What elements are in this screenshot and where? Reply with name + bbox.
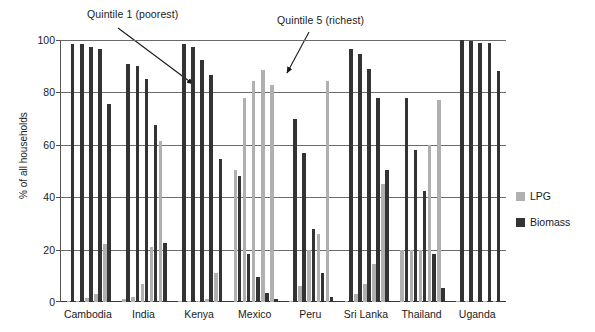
bar-lpg-q5: [381, 184, 385, 302]
bar-biomass-q5: [107, 104, 111, 302]
bar-biomass-q5: [163, 243, 167, 302]
x-tick-label-peru: Peru: [283, 308, 339, 320]
x-tick-label-india: India: [116, 308, 172, 320]
bar-biomass-q3: [423, 191, 427, 302]
bar-lpg-q2: [298, 286, 302, 302]
bar-lpg-q3: [141, 284, 145, 302]
y-tick-label-20: 20: [27, 244, 55, 256]
x-tick-label-kenya: Kenya: [171, 308, 227, 320]
bar-lpg-q3: [85, 298, 89, 302]
bar-lpg-q2: [410, 250, 414, 302]
bar-biomass-q3: [145, 79, 149, 302]
bar-lpg-q5: [103, 244, 107, 302]
bar-biomass-q2: [247, 254, 251, 302]
bar-lpg-q3: [363, 284, 367, 302]
chart-legend: LPG Biomass: [516, 190, 570, 242]
bar-biomass-q4: [488, 43, 492, 302]
bar-biomass-q3: [367, 69, 371, 302]
bar-biomass-q5: [274, 299, 278, 302]
bar-lpg-q2: [243, 98, 247, 302]
bar-biomass-q2: [358, 54, 362, 302]
bar-lpg-q5: [493, 301, 497, 302]
bar-biomass-q4: [432, 254, 436, 302]
bar-lpg-q4: [94, 294, 98, 302]
bar-group-peru: [284, 40, 340, 302]
legend-label-lpg: LPG: [530, 190, 551, 202]
annotation-quintile-1: Quintile 1 (poorest): [87, 8, 178, 20]
bar-biomass-q5: [441, 288, 445, 302]
legend-item-lpg: LPG: [516, 190, 570, 202]
bar-lpg-q1: [67, 301, 71, 302]
plot-area: [60, 40, 505, 302]
bar-biomass-q1: [182, 44, 186, 302]
bar-lpg-q5: [437, 100, 441, 302]
bar-biomass-q1: [405, 98, 409, 302]
bar-biomass-q1: [71, 44, 75, 302]
bar-lpg-q3: [252, 81, 256, 302]
bar-biomass-q3: [312, 229, 316, 302]
bar-biomass-q1: [460, 40, 464, 302]
bar-group-kenya: [172, 40, 228, 302]
bar-lpg-q5: [326, 81, 330, 302]
bar-biomass-q4: [376, 98, 380, 302]
bar-biomass-q2: [191, 47, 195, 302]
bar-group-india: [117, 40, 173, 302]
x-tick-label-sri-lanka: Sri Lanka: [338, 308, 394, 320]
bar-lpg-q3: [419, 250, 423, 302]
bar-biomass-q3: [256, 277, 260, 302]
bar-lpg-q2: [187, 301, 191, 302]
bar-biomass-q4: [209, 75, 213, 302]
bar-biomass-q2: [80, 44, 84, 302]
legend-swatch-biomass: [516, 218, 525, 227]
bar-biomass-q3: [89, 47, 93, 302]
y-tick-label-100: 100: [27, 34, 55, 46]
bar-biomass-q4: [98, 49, 102, 302]
bar-group-mexico: [228, 40, 284, 302]
bar-biomass-q5: [219, 159, 223, 302]
y-axis-title: % of all households: [18, 81, 29, 231]
bar-lpg-q1: [456, 301, 460, 302]
y-tick-label-0: 0: [27, 296, 55, 308]
bar-biomass-q4: [321, 273, 325, 302]
bar-lpg-q2: [131, 297, 135, 302]
bar-lpg-q4: [150, 247, 154, 302]
bar-lpg-q2: [76, 301, 80, 302]
bar-biomass-q3: [478, 43, 482, 302]
bar-lpg-q1: [234, 170, 238, 302]
bar-lpg-q2: [354, 294, 358, 302]
bar-group-cambodia: [61, 40, 117, 302]
bar-biomass-q1: [238, 176, 242, 302]
bar-lpg-q5: [159, 141, 163, 302]
bar-biomass-q1: [293, 119, 297, 302]
y-tick-label-60: 60: [27, 139, 55, 151]
bar-lpg-q4: [317, 234, 321, 302]
bar-lpg-q1: [122, 299, 126, 302]
bar-group-sri-lanka: [339, 40, 395, 302]
bar-group-thailand: [395, 40, 451, 302]
bar-biomass-q4: [265, 293, 269, 302]
bar-biomass-q2: [414, 150, 418, 302]
y-tick-label-40: 40: [27, 191, 55, 203]
bar-biomass-q5: [385, 170, 389, 302]
bar-lpg-q3: [474, 301, 478, 302]
bar-lpg-q4: [205, 299, 209, 302]
bar-lpg-q4: [483, 301, 487, 302]
bar-lpg-q3: [196, 301, 200, 302]
legend-label-biomass: Biomass: [530, 216, 570, 228]
bar-biomass-q2: [302, 153, 306, 302]
bar-lpg-q2: [465, 301, 469, 302]
x-tick-label-thailand: Thailand: [394, 308, 450, 320]
x-tick-label-uganda: Uganda: [449, 308, 505, 320]
bar-lpg-q5: [270, 85, 274, 302]
bar-chart: Quintile 1 (poorest) Quintile 5 (richest…: [0, 0, 595, 332]
y-tick-label-80: 80: [27, 86, 55, 98]
bar-biomass-q5: [330, 297, 334, 302]
bar-lpg-q1: [400, 250, 404, 302]
bar-biomass-q4: [154, 125, 158, 302]
bar-biomass-q2: [136, 66, 140, 302]
bar-biomass-q2: [469, 41, 473, 302]
bar-lpg-q1: [345, 301, 349, 302]
annotation-quintile-5: Quintile 5 (richest): [277, 14, 364, 26]
bar-lpg-q4: [261, 70, 265, 302]
x-tick-label-cambodia: Cambodia: [60, 308, 116, 320]
